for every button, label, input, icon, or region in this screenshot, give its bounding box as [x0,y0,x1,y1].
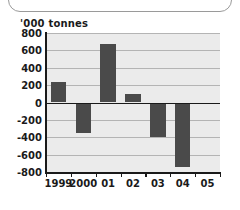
y-tick-label: 0 [2,97,42,108]
y-tick-label: 200 [2,80,42,91]
plot-area [46,33,220,172]
bar [100,44,115,103]
bar [76,103,91,134]
x-tick-mark [71,172,72,177]
x-tick-label: 2000 [69,178,97,189]
x-tick-label: 05 [201,178,215,189]
x-tick-label: 01 [101,178,115,189]
x-tick-mark [96,172,97,177]
y-axis-tick-labels: 8006004002000-200-400-600-800 [0,0,42,210]
y-tick-label: -400 [2,132,42,143]
bar-chart-figure: '000 tonnes 8006004002000-200-400-600-80… [0,0,240,210]
x-tick-mark [145,172,146,177]
x-tick-mark [220,172,221,177]
x-tick-mark [121,172,122,177]
y-tick-label: 600 [2,45,42,56]
x-tick-label: 04 [176,178,190,189]
x-tick-mark [46,172,47,177]
y-tick-label: 800 [2,28,42,39]
x-tick-label: 1999 [45,178,73,189]
bar [150,103,165,137]
bar [175,103,190,167]
bar [51,82,66,103]
x-tick-label: 02 [126,178,140,189]
zero-line [46,103,220,105]
y-tick-label: 400 [2,62,42,73]
bar [125,94,140,103]
y-tick-label: -800 [2,167,42,178]
y-tick-label: -200 [2,114,42,125]
x-tick-label: 03 [151,178,165,189]
x-tick-mark [170,172,171,177]
x-tick-mark [195,172,196,177]
y-tick-label: -600 [2,149,42,160]
